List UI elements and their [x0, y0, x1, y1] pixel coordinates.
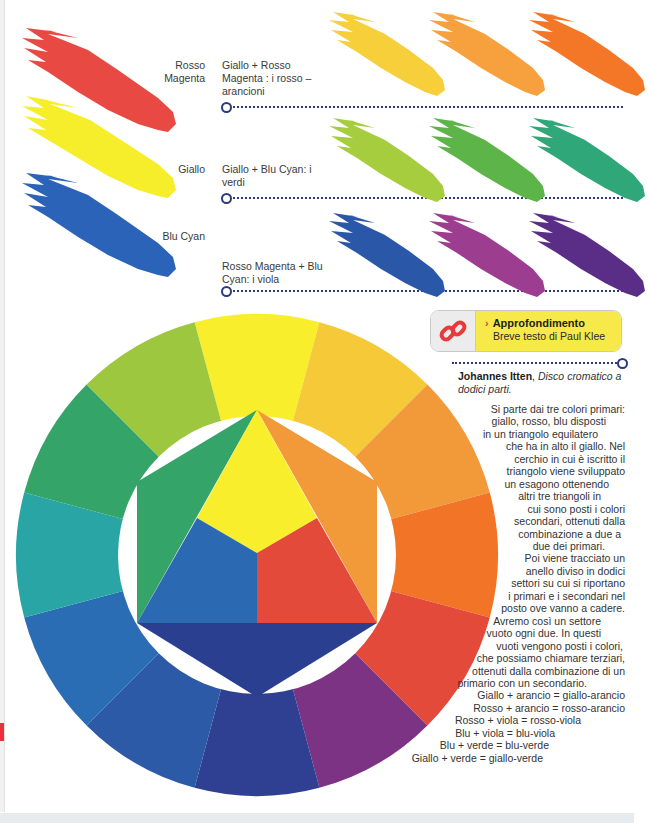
body-text-line: ottenuti dalla combinazione di un — [330, 665, 625, 677]
body-text-line: Blu + viola = blu-viola — [330, 727, 625, 739]
callout-title: ›Approfondimento — [485, 317, 621, 330]
body-text-line: Giallo + arancio = giallo-arancio — [330, 689, 625, 701]
mix-swatch-stroke — [525, 205, 649, 300]
body-text-line: triangolo viene sviluppato — [330, 465, 625, 477]
caption-dotted-divider — [452, 362, 617, 364]
label-blu-cyan: Blu Cyan — [150, 230, 205, 243]
body-text-line: vuoti vengono posti i colori, — [330, 640, 625, 652]
ring-bullet-icon — [617, 358, 628, 369]
body-text-line: Si parte dai tre colori primari: — [330, 403, 625, 415]
body-text-line: settori su cui si riportano — [330, 577, 625, 589]
body-text-line: Poi viene tracciato un — [330, 552, 625, 564]
body-text-line: combinazione a due a — [330, 528, 625, 540]
paint-stroke-shape — [22, 173, 176, 277]
body-text-line: secondari, ottenuti dalla — [330, 515, 625, 527]
figure-caption: Johannes Itten, Disco cromatico a dodici… — [458, 370, 628, 396]
body-text-line: un esagono ottenendo — [330, 478, 625, 490]
body-text-line: Giallo + verde = giallo-verde — [330, 752, 625, 764]
ring-bullet-icon — [221, 286, 232, 297]
ring-bullet-icon — [221, 102, 232, 113]
body-text-line: che possiamo chiamare terziari, — [330, 652, 625, 664]
body-text-line: vuoto ogni due. In questi — [330, 627, 625, 639]
body-text-line: due dei primari. — [330, 540, 625, 552]
body-text-line: in un triangolo equilatero — [330, 428, 625, 440]
mix-swatch-stroke — [525, 110, 649, 205]
body-text-line: primario con un secondario. — [330, 677, 625, 689]
body-text-line: Rosso + viola = rosso-viola — [330, 714, 625, 726]
mix-label-rosso-arancioni: Giallo + Rosso Magenta : i rosso – aranc… — [222, 59, 332, 98]
callout-subtitle: Breve testo di Paul Klee — [493, 330, 621, 343]
mix-swatch-stroke — [525, 4, 649, 99]
mix-label-verdi: Giallo + Blu Cyan: i verdi — [222, 163, 332, 189]
body-text: Si parte dai tre colori primari:giallo, … — [330, 401, 625, 764]
body-text-line: anello diviso in dodici — [330, 565, 625, 577]
body-text-line: cui sono posti i colori — [330, 503, 625, 515]
mix-label-viola: Rosso Magenta + Blu Cyan: i viola — [222, 260, 332, 286]
caption-author: Johannes Itten — [458, 370, 532, 382]
primary-stroke-blu-cyan — [18, 165, 178, 285]
body-text-line: cerchio in cui è iscritto il — [330, 453, 625, 465]
label-giallo: Giallo — [150, 163, 205, 176]
approfondimento-callout[interactable]: ›Approfondimento Breve testo di Paul Kle… — [430, 310, 622, 352]
body-text-line: altri tre triangoli in — [330, 490, 625, 502]
callout-title-text: Approfondimento — [493, 317, 585, 329]
body-text-line: i primari e i secondari nel — [330, 590, 625, 602]
body-text-line: posto ove vanno a cadere. — [330, 602, 625, 614]
ring-bullet-icon — [221, 193, 232, 204]
label-rosso-magenta: Rosso Magenta — [150, 59, 205, 85]
page-footer-band — [0, 813, 634, 823]
body-text-line: giallo, rosso, blu disposti — [330, 415, 625, 427]
dotted-divider — [233, 106, 623, 108]
body-text-line: Blu + verde = blu-verde — [330, 739, 625, 751]
callout-text[interactable]: ›Approfondimento Breve testo di Paul Kle… — [476, 311, 621, 351]
link-icon — [438, 316, 468, 346]
chevron-right-icon: › — [485, 317, 489, 329]
body-text-line: che ha in alto il giallo. Nel — [330, 440, 625, 452]
body-text-line: Avremo così un settore — [330, 615, 625, 627]
body-text-line: Rosso + arancio = rosso-arancio — [330, 702, 625, 714]
callout-icon-box[interactable] — [431, 311, 476, 351]
